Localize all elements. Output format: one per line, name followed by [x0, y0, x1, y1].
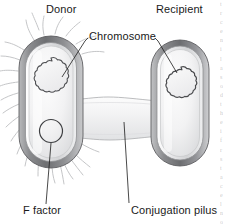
label-conjugation-pilus: Conjugation pilus: [131, 205, 217, 216]
label-f-factor: F factor: [23, 205, 61, 216]
conjugation-figure: Donor Recipient Chromosome F factor Conj…: [0, 0, 230, 224]
label-chromosome: Chromosome: [89, 31, 156, 42]
recipient-cell: [151, 40, 209, 166]
donor-cell: [19, 36, 83, 168]
label-donor: Donor: [46, 4, 76, 15]
label-recipient: Recipient: [156, 4, 203, 15]
